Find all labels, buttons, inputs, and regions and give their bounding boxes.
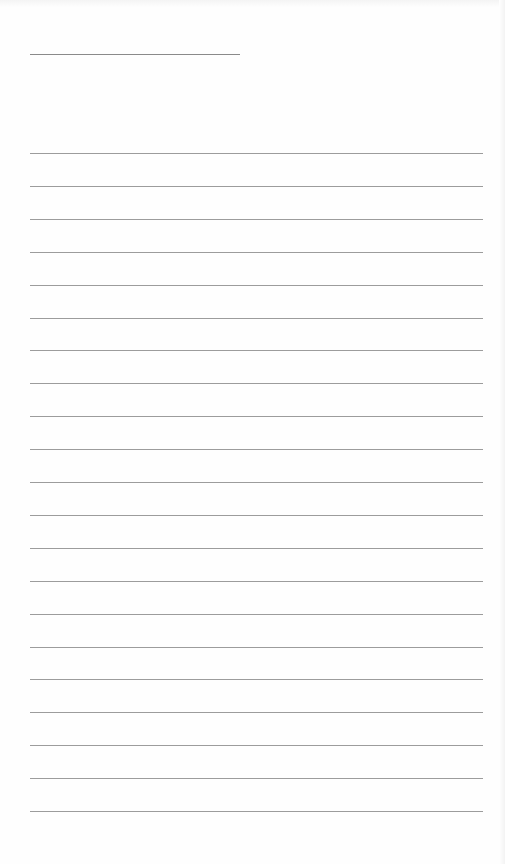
ruled-line	[30, 679, 483, 680]
ruled-line	[30, 416, 483, 417]
ruled-line	[30, 482, 483, 483]
ruled-line	[30, 153, 483, 154]
ruled-line	[30, 219, 483, 220]
ruled-line	[30, 350, 483, 351]
ruled-line	[30, 778, 483, 779]
ruled-line	[30, 285, 483, 286]
ruled-line	[30, 614, 483, 615]
ruled-line	[30, 712, 483, 713]
ruled-line	[30, 548, 483, 549]
title-rule	[30, 54, 240, 55]
lined-page	[0, 0, 505, 864]
ruled-line	[30, 745, 483, 746]
ruled-line	[30, 647, 483, 648]
ruled-line	[30, 581, 483, 582]
page-right-edge	[499, 0, 505, 864]
ruled-line	[30, 515, 483, 516]
ruled-line	[30, 318, 483, 319]
page-top-edge	[0, 0, 505, 8]
ruled-line	[30, 811, 483, 812]
ruled-line	[30, 252, 483, 253]
ruled-line	[30, 383, 483, 384]
ruled-line	[30, 449, 483, 450]
ruled-line	[30, 186, 483, 187]
